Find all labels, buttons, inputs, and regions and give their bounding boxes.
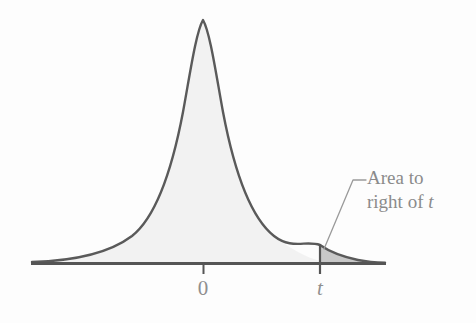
annotation-line-2-symbol: t: [428, 191, 433, 212]
annotation-leader-line: [324, 180, 366, 249]
t-distribution-figure: 0 t Area to right of t: [0, 0, 476, 323]
tick-label-zero: 0: [193, 278, 213, 299]
annotation-line-1: Area to: [367, 166, 475, 190]
tick-label-t: t: [310, 278, 330, 299]
area-annotation: Area to right of t: [367, 166, 475, 213]
right-tail-shaded-area: [320, 245, 385, 263]
annotation-line-2: right of t: [367, 190, 475, 214]
distribution-curve-svg: [0, 0, 476, 323]
annotation-line-2-prefix: right of: [367, 191, 428, 212]
